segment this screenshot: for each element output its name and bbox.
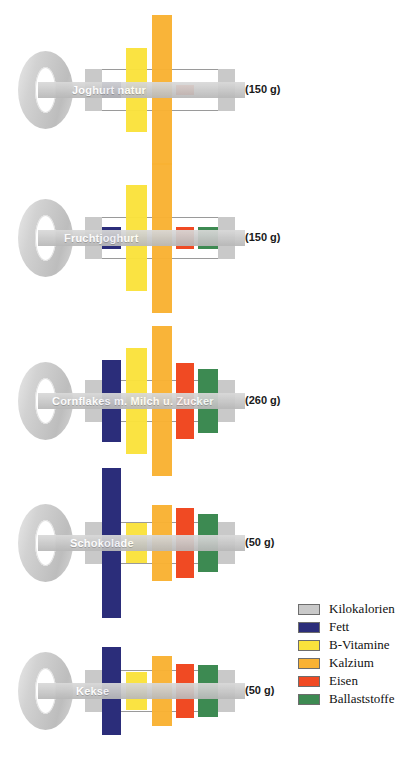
legend-label: Kalzium [329, 655, 374, 671]
portion-weight: (150 g) [245, 83, 280, 95]
key-shaft: Schokolade [38, 535, 245, 551]
food-label: Joghurt natur [38, 84, 146, 96]
key-shaft: Kekse [38, 683, 245, 699]
key-shaft: Fruchtjoghurt [38, 230, 245, 246]
portion-weight: (260 g) [245, 394, 280, 406]
legend-swatch [298, 676, 320, 687]
legend-item: B-Vitamine [298, 636, 410, 654]
food-label: Fruchtjoghurt [38, 232, 139, 244]
legend-swatch [298, 694, 320, 705]
portion-weight: (50 g) [245, 536, 274, 548]
legend-label: B-Vitamine [329, 637, 390, 653]
legend-swatch [298, 640, 320, 651]
legend-label: Kilokalorien [329, 601, 395, 617]
legend-item: Eisen [298, 672, 410, 690]
key-shaft: Joghurt natur [38, 82, 245, 98]
legend-label: Fett [329, 619, 349, 635]
key-shaft: Cornflakes m. Milch u. Zucker [38, 393, 245, 409]
food-label: Kekse [38, 685, 109, 697]
legend-swatch [298, 604, 320, 615]
legend-item: Ballaststoffe [298, 690, 410, 708]
food-label: Schokolade [38, 537, 134, 549]
nutrient-key-chart: Joghurt natur(150 g)Fruchtjoghurt(150 g)… [0, 0, 412, 782]
legend-label: Eisen [329, 673, 358, 689]
legend-swatch [298, 622, 320, 633]
legend-item: Kilokalorien [298, 600, 410, 618]
legend-swatch [298, 658, 320, 669]
legend-item: Fett [298, 618, 410, 636]
chart-legend: KilokalorienFettB-VitamineKalziumEisenBa… [298, 600, 410, 708]
food-label: Cornflakes m. Milch u. Zucker [38, 395, 214, 407]
legend-label: Ballaststoffe [329, 691, 394, 707]
legend-item: Kalzium [298, 654, 410, 672]
portion-weight: (50 g) [245, 684, 274, 696]
portion-weight: (150 g) [245, 231, 280, 243]
